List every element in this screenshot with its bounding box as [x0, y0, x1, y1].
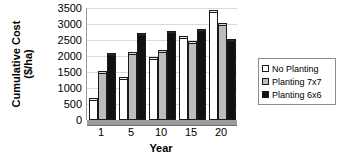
bar-body	[197, 30, 206, 120]
y-axis-tick-label: 1000	[42, 83, 82, 94]
bar-cap	[107, 53, 116, 56]
y-axis-tick-labels: 0500100015002000250030003500	[42, 8, 82, 120]
bar-chart: Cumulative Cost ($/ha) 05001000150020002…	[0, 0, 340, 167]
bar-cap	[179, 36, 188, 39]
bar-cap	[209, 10, 218, 13]
x-axis-tick-labels: 15101520	[86, 126, 236, 140]
y-axis-tick-label: 3000	[42, 19, 82, 30]
bar-cap	[137, 33, 146, 36]
bar	[179, 37, 188, 120]
bar-cap	[89, 98, 98, 101]
bar-group	[177, 8, 207, 120]
bar	[167, 32, 176, 120]
bar-body	[167, 32, 176, 120]
chart-legend: No PlantingPlanting 7x7Planting 6x6	[258, 58, 336, 105]
bar-body	[119, 78, 128, 120]
bar	[227, 40, 236, 120]
bar-group	[117, 8, 147, 120]
bar-cap	[218, 23, 227, 26]
legend-item: No Planting	[262, 62, 333, 75]
bar-cap	[197, 29, 206, 32]
bar	[158, 51, 167, 120]
bar-cap	[98, 71, 107, 74]
bar-body	[218, 24, 227, 120]
bar-body	[158, 51, 167, 120]
legend-swatch-icon	[262, 78, 269, 85]
x-axis-tick-label: 5	[116, 126, 146, 138]
plot-area	[86, 8, 237, 120]
y-axis-tick-label: 2000	[42, 51, 82, 62]
bar	[107, 54, 116, 120]
bar-body	[137, 34, 146, 120]
bar	[197, 30, 206, 120]
legend-item-label: Planting 6x6	[272, 90, 322, 100]
legend-swatch-icon	[262, 91, 269, 98]
bar-cap	[188, 41, 197, 44]
bar	[209, 11, 218, 120]
bar	[128, 53, 137, 120]
y-axis-title-line-2: ($/ha)	[22, 2, 34, 126]
x-axis-tick-label: 20	[206, 126, 236, 138]
bar-body	[188, 42, 197, 120]
bar	[188, 42, 197, 120]
bar-cap	[158, 50, 167, 53]
bar-cap	[149, 57, 158, 60]
y-axis-title: Cumulative Cost ($/ha)	[10, 2, 34, 126]
bar-group	[207, 8, 237, 120]
y-axis-title-line-1: Cumulative Cost	[10, 21, 22, 108]
legend-swatch-icon	[262, 65, 269, 72]
y-axis-tick-label: 3500	[42, 3, 82, 14]
bar-cap	[119, 77, 128, 80]
x-axis-title: Year	[86, 142, 236, 154]
bar	[218, 24, 227, 120]
legend-item-label: Planting 7x7	[272, 77, 322, 87]
bar	[98, 72, 107, 120]
bars-layer	[87, 8, 237, 120]
bar	[137, 34, 146, 120]
legend-item: Planting 7x7	[262, 75, 333, 88]
bar-body	[107, 54, 116, 120]
bar-body	[89, 99, 98, 120]
bar-body	[209, 11, 218, 120]
legend-item: Planting 6x6	[262, 88, 333, 101]
x-axis-tick-label: 1	[86, 126, 116, 138]
bar-group	[147, 8, 177, 120]
x-axis-tick-label: 10	[146, 126, 176, 138]
y-axis-tick-label: 2500	[42, 35, 82, 46]
x-axis-tick-label: 15	[176, 126, 206, 138]
bar	[149, 58, 158, 120]
bar-body	[128, 53, 137, 120]
y-axis-tick-label: 0	[42, 115, 82, 126]
y-axis-tick-label: 500	[42, 99, 82, 110]
bar-body	[98, 72, 107, 120]
bar-cap	[227, 39, 236, 42]
bar-body	[149, 58, 158, 120]
y-axis-tick-label: 1500	[42, 67, 82, 78]
bar-body	[227, 40, 236, 120]
legend-item-label: No Planting	[272, 64, 319, 74]
bar	[119, 78, 128, 120]
bar	[89, 99, 98, 120]
bar-group	[87, 8, 117, 120]
bar-body	[179, 37, 188, 120]
bar-cap	[128, 52, 137, 55]
bar-cap	[167, 31, 176, 34]
